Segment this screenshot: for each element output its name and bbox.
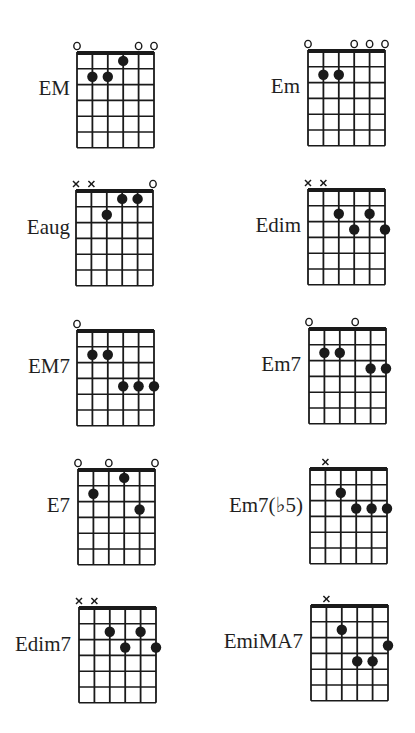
finger-dot-icon bbox=[352, 656, 362, 666]
finger-dot-icon bbox=[383, 640, 393, 650]
finger-dot-icon bbox=[367, 656, 377, 666]
muted-string-icon bbox=[323, 596, 329, 602]
fretboard-grid bbox=[303, 590, 396, 709]
finger-dot-icon bbox=[337, 625, 347, 635]
chord-name-label: EmiMA7 bbox=[224, 631, 303, 652]
chord-diagram-9: EmiMA7 bbox=[0, 0, 415, 733]
